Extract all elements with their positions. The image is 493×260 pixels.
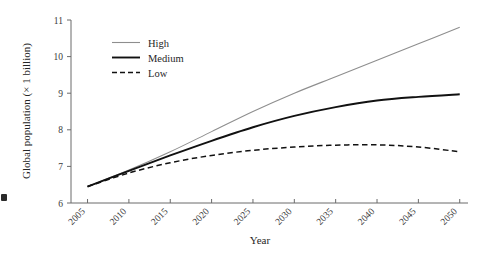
y-axis-ticks: 67891011 [54,16,72,209]
chart-legend: High Medium Low [112,38,184,79]
y-tick-label: 11 [54,16,63,26]
x-tick-label: 2045 [397,206,418,227]
legend-label-high: High [148,38,170,49]
x-axis-title: Year [250,234,271,246]
legend-entry-high: High [112,38,170,49]
x-tick-label: 2040 [356,206,377,227]
x-tick-label: 2020 [191,206,212,227]
x-tick-label: 2005 [66,206,87,227]
x-tick-label: 2030 [273,206,294,227]
y-tick-label: 8 [58,125,63,135]
y-tick-label: 10 [54,52,64,62]
legend-label-medium: Medium [148,53,184,64]
legend-entry-medium: Medium [112,53,184,64]
y-tick-label: 9 [58,89,63,99]
series-line-medium [88,94,460,186]
legend-label-low: Low [148,68,168,79]
x-tick-label: 2050 [439,206,460,227]
y-tick-label: 6 [58,199,63,209]
x-tick-label: 2025 [232,206,253,227]
x-tick-label: 2035 [315,206,336,227]
x-tick-label: 2015 [149,206,170,227]
y-tick-label: 7 [58,162,63,172]
y-axis-title: Global population (× 1 billion) [20,43,33,179]
legend-entry-low: Low [112,68,168,79]
series-layer [88,27,460,186]
population-projection-chart: 67891011 2005201020152020202520302035204… [0,0,493,260]
scan-artifact [1,194,7,201]
x-tick-label: 2010 [108,206,129,227]
series-line-high [88,27,460,186]
chart-svg: 67891011 2005201020152020202520302035204… [0,0,493,260]
